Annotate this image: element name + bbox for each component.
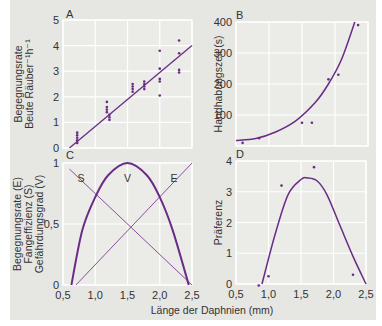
y-tick-label: 1 (53, 157, 59, 169)
data-point (108, 116, 111, 119)
x-tick-label: 1,0 (88, 289, 103, 301)
data-point (241, 142, 244, 145)
data-point (280, 184, 283, 187)
data-point (76, 134, 79, 137)
y-tick-label: 1 (226, 247, 232, 259)
data-point (76, 136, 79, 139)
data-point (311, 121, 314, 124)
y-axis-label: Gefährdungsgrad (V) (33, 175, 45, 274)
data-point (178, 69, 181, 72)
data-point (337, 73, 340, 76)
panel-c: C00,510,51,01,52,02,5Begegnungsrate (E)F… (11, 149, 200, 301)
data-point (143, 88, 146, 91)
data-point (158, 94, 161, 97)
data-point (76, 142, 79, 145)
y-tick-label: 4 (226, 155, 232, 167)
data-point (158, 78, 161, 81)
data-point (301, 121, 304, 124)
data-point (143, 85, 146, 88)
data-point (143, 80, 146, 83)
data-point (257, 284, 260, 287)
y-tick-label: 2 (53, 91, 59, 103)
data-point (143, 83, 146, 86)
data-point (108, 113, 111, 116)
data-point (178, 39, 181, 42)
data-point (267, 275, 270, 278)
x-tick-labels: 0,51,01,52,02,5 (55, 289, 199, 301)
y-tick-label: 400 (214, 16, 232, 28)
data-point (158, 49, 161, 52)
figure-canvas: A012345BegegnungsrateBeute Räuber⁻¹h⁻¹B1… (0, 0, 382, 326)
data-point (158, 67, 161, 70)
data-point (106, 108, 109, 111)
y-tick-label: 0,5 (44, 218, 59, 230)
x-tick-label: 2,5 (184, 289, 199, 301)
y-tick-label: 2 (226, 217, 232, 229)
data-point (131, 90, 134, 93)
curve-label-e: E (170, 172, 177, 184)
y-tick-label: 3 (53, 65, 59, 77)
data-point (352, 273, 355, 276)
x-axis-label: Länge der Daphnien (mm) (151, 304, 274, 316)
x-tick-label: 1,5 (293, 288, 308, 300)
panel-label-c: C (66, 149, 74, 161)
data-point (313, 166, 316, 169)
data-point (76, 139, 79, 142)
data-point (108, 119, 111, 122)
data-point (178, 71, 181, 74)
y-tick-labels: 012345 (53, 14, 59, 154)
data-point (357, 24, 360, 27)
y-tick-labels: 01234 (226, 155, 232, 290)
y-tick-label: 1 (53, 116, 59, 128)
data-point (327, 78, 330, 81)
x-tick-label: 1,5 (120, 289, 135, 301)
data-point (106, 106, 109, 109)
data-point (106, 101, 109, 104)
y-axis-label: Beute Räuber⁻¹h⁻¹ (23, 39, 35, 129)
y-tick-label: 5 (53, 14, 59, 26)
y-tick-labels: 00,51 (44, 157, 59, 291)
x-tick-label: 2,0 (326, 288, 341, 300)
data-point (258, 137, 261, 140)
data-point (76, 131, 79, 134)
panel-d: D012340,51,01,52,02,5Präferenz (212, 148, 374, 300)
curve-label-v: V (124, 172, 131, 184)
x-tick-label: 0,5 (228, 288, 243, 300)
curve-label-s: S (78, 172, 85, 184)
y-tick-label: 4 (53, 40, 59, 52)
data-point (106, 111, 109, 114)
data-point (158, 80, 161, 83)
data-point (178, 52, 181, 55)
x-tick-label: 0,5 (55, 289, 70, 301)
x-tick-label: 2,5 (358, 288, 373, 300)
data-point (131, 88, 134, 91)
panel-a: A012345BegegnungsrateBeute Räuber⁻¹h⁻¹ (12, 8, 192, 154)
data-point (131, 85, 134, 88)
x-tick-labels: 0,51,01,52,02,5 (228, 288, 373, 300)
data-point (131, 83, 134, 86)
y-axis-label: Handhabungszeit (s) (212, 36, 224, 133)
panel-label-b: B (236, 9, 243, 21)
y-axis-label: Präferenz (212, 200, 224, 246)
y-tick-label: 0 (53, 142, 59, 154)
panel-b: B100200300400Handhabungszeit (s) (212, 9, 368, 146)
y-tick-label: 3 (226, 186, 232, 198)
panel-label-d: D (236, 148, 244, 160)
panel-label-a: A (66, 8, 74, 20)
x-tick-label: 2,0 (152, 289, 167, 301)
x-tick-label: 1,0 (261, 288, 276, 300)
